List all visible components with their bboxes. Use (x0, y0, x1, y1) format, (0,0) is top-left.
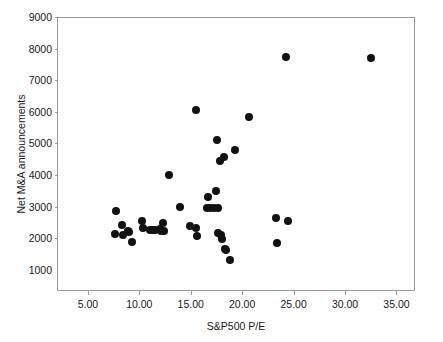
x-axis-tick-label: 5.00 (66, 299, 110, 310)
y-axis-title: Net M&A announcements (14, 17, 28, 291)
x-axis-tick-mark (396, 291, 397, 295)
data-point (204, 193, 212, 201)
data-point (128, 238, 136, 246)
data-point (111, 230, 119, 238)
x-axis-tick-label: 20.00 (220, 299, 264, 310)
y-axis-tick-label: 6000 (8, 107, 52, 117)
data-point (284, 217, 292, 225)
x-axis-tick-label: 35.00 (374, 299, 418, 310)
x-axis-tick-mark (242, 291, 243, 295)
y-axis-tick-label: 7000 (8, 75, 52, 85)
y-axis-tick-label: 2000 (8, 233, 52, 243)
data-point (220, 153, 228, 161)
data-point (367, 54, 375, 62)
x-axis-tick-mark (294, 291, 295, 295)
data-point (193, 232, 201, 240)
data-point-layer (58, 18, 414, 290)
y-axis-tick-label: 3000 (8, 202, 52, 212)
y-axis-tick-label: 4000 (8, 170, 52, 180)
x-axis-tick-mark (88, 291, 89, 295)
data-point (226, 256, 234, 264)
scatter-plot-figure: Net M&A announcements 100020003000400050… (0, 0, 443, 342)
y-axis-tick-label: 8000 (8, 44, 52, 54)
x-axis-tick-label: 30.00 (323, 299, 367, 310)
data-point (157, 227, 165, 235)
data-point (231, 146, 239, 154)
data-point (176, 203, 184, 211)
data-point (165, 171, 173, 179)
x-axis-tick-mark (345, 291, 346, 295)
data-point (212, 187, 220, 195)
x-axis-tick-mark (191, 291, 192, 295)
data-point (218, 235, 226, 243)
y-axis-tick-label: 9000 (8, 12, 52, 22)
x-axis-tick-label: 25.00 (272, 299, 316, 310)
data-point (192, 224, 200, 232)
data-point (222, 246, 230, 254)
data-point (272, 214, 280, 222)
data-point (282, 53, 290, 61)
data-point (213, 136, 221, 144)
y-axis-tick-label: 1000 (8, 265, 52, 275)
x-axis-tick-label: 10.00 (117, 299, 161, 310)
x-axis-title: S&P500 P/E (57, 320, 415, 332)
data-point (149, 226, 157, 234)
data-point (125, 228, 133, 236)
data-point (192, 106, 200, 114)
data-point (112, 207, 120, 215)
x-axis-tick-label: 15.00 (169, 299, 213, 310)
y-axis-tick-label: 5000 (8, 138, 52, 148)
plot-area (57, 17, 415, 291)
data-point (273, 239, 281, 247)
x-axis-tick-mark (139, 291, 140, 295)
data-point (245, 113, 253, 121)
